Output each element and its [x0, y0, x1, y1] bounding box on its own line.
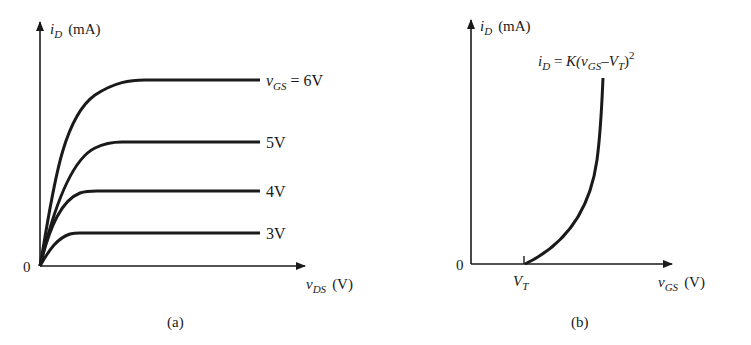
- transfer-equation: iD = K(vGS–VT)2: [538, 49, 635, 72]
- x-axis-label-a: vDS(V): [306, 276, 353, 295]
- caption-b: (b): [571, 314, 589, 331]
- curve-label-6v: vGS = 6V: [266, 72, 324, 92]
- curve-vgs-4v: [40, 191, 260, 266]
- y-axis-label-b: iD(mA): [480, 18, 531, 37]
- curve-label-3v: 3V: [266, 225, 286, 242]
- origin-label-b: 0: [456, 257, 464, 273]
- threshold-label: VT: [513, 273, 529, 292]
- origin-label-a: 0: [23, 259, 31, 275]
- transfer-curve: [525, 78, 603, 264]
- panel-b: iD(mA) 0 VT vGS(V) iD = K(vGS–VT)2 (b): [456, 18, 705, 331]
- figure-canvas: iD(mA) 0 vDS(V) vGS = 6V 5V 4V 3V (a) iD…: [0, 0, 751, 345]
- x-axis-label-b: vGS(V): [658, 274, 705, 293]
- caption-a: (a): [167, 314, 184, 331]
- curve-vgs-3v: [40, 233, 260, 266]
- panel-a: iD(mA) 0 vDS(V) vGS = 6V 5V 4V 3V (a): [23, 21, 353, 331]
- y-axis-label-a: iD(mA): [50, 21, 101, 40]
- curve-label-5v: 5V: [266, 134, 286, 151]
- curve-vgs-5v: [40, 142, 260, 266]
- curve-label-4v: 4V: [266, 183, 286, 200]
